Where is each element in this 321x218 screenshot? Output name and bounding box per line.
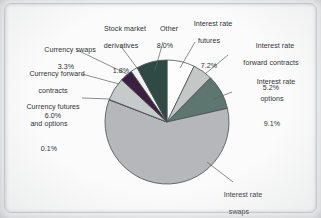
label-interest-rate-swaps: Interest rate swaps 59.4% (203, 183, 275, 218)
label-interest-rate-swaps-line1: Interest rate (224, 191, 263, 199)
label-currency-futures-and-options-line2: and options (9, 120, 89, 128)
label-stock-market-derivatives-line1: Stock market (104, 25, 146, 33)
label-other: Other 8.0% (148, 17, 182, 67)
label-interest-rate-options: Interest rate options 9.1% (236, 70, 308, 146)
label-currency-futures-and-options-line1: Currency futures (26, 103, 79, 111)
leader-line-interest-rate-swaps (207, 162, 233, 182)
label-currency-futures-and-options-value: 0.1% (9, 145, 89, 153)
label-interest-rate-options-value: 9.1% (236, 120, 308, 128)
label-other-value: 8.0% (148, 42, 182, 50)
label-interest-rate-swaps-line2: swaps (203, 208, 275, 216)
label-currency-futures-and-options: Currency futures and options 0.1% (9, 95, 89, 171)
label-interest-rate-options-line1: Interest rate (257, 78, 296, 86)
label-other-line1: Other (160, 25, 178, 33)
label-interest-rate-forward-contracts-line1: Interest rate (256, 42, 295, 50)
label-currency-swaps-line1: Currency swaps (44, 46, 96, 54)
label-currency-forward-contracts-line1: Currency forward (29, 70, 84, 78)
label-interest-rate-forward-contracts-line2: forward contracts (228, 59, 314, 67)
label-interest-rate-options-line2: options (236, 95, 308, 103)
label-interest-rate-futures-line1: Interest rate (194, 20, 233, 28)
pie-chart-figure: Stock market derivatives 1.8% Other 8.0%… (0, 0, 321, 218)
